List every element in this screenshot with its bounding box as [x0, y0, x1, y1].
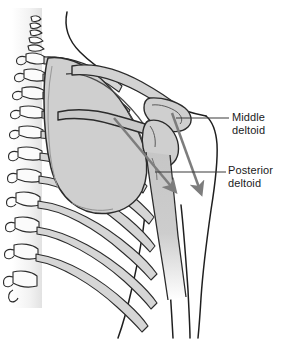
vertebra: [20, 106, 44, 118]
label-posterior-deltoid: Posterior deltoid: [228, 164, 273, 189]
vertebra: [14, 244, 38, 259]
vertebra: [19, 126, 43, 138]
vertebral-column: [4, 8, 45, 308]
vertebra: [15, 217, 39, 232]
vertebra: [26, 53, 45, 64]
vertebra: [22, 87, 45, 99]
label-middle-deltoid-line2: deltoid: [232, 124, 265, 137]
label-posterior-deltoid-line2: deltoid: [228, 177, 273, 190]
vertebra: [13, 271, 37, 287]
vertebra: [24, 69, 45, 81]
vertebra: [16, 192, 40, 206]
label-posterior-deltoid-line1: Posterior: [228, 164, 273, 176]
vertebra: [18, 147, 42, 160]
label-middle-deltoid: Middle deltoid: [232, 111, 265, 136]
anatomy-figure: Middle deltoid Posterior deltoid: [0, 0, 281, 341]
vertebra: [17, 169, 41, 182]
outer-arm-outline: [198, 116, 217, 338]
label-middle-deltoid-line1: Middle: [232, 111, 265, 123]
